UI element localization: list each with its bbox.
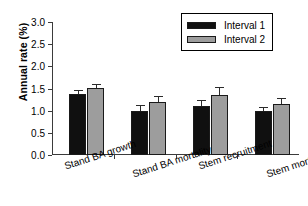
y-axis-tick-label: 0.5 <box>31 127 45 138</box>
y-axis-tick-label: 1.5 <box>31 83 45 94</box>
error-bar-cap <box>215 87 224 88</box>
bar <box>87 88 104 155</box>
bar-group <box>69 22 104 155</box>
error-bar-cap <box>277 98 286 99</box>
legend-label-interval-1: Interval 1 <box>224 20 265 31</box>
y-axis-tick-label: 3.0 <box>31 17 45 28</box>
bar-group <box>131 22 166 155</box>
legend-label-interval-2: Interval 2 <box>224 34 265 45</box>
error-bar-cap <box>259 107 268 108</box>
y-axis-tick-mark <box>48 22 52 23</box>
y-axis-tick-label: 0.0 <box>31 150 45 161</box>
y-axis-tick-mark <box>48 89 52 90</box>
y-axis-tick-mark <box>48 44 52 45</box>
bar <box>273 104 290 155</box>
error-bar-cap <box>74 90 83 91</box>
y-axis-title: Annual rate (%) <box>17 0 29 127</box>
y-axis-tick-mark <box>48 111 52 112</box>
y-axis-line <box>52 22 53 155</box>
legend-swatch-interval-2 <box>187 36 216 43</box>
y-axis-tick-mark <box>48 66 52 67</box>
bar-chart-figure: Annual rate (%) 0.00.51.01.52.02.53.0 St… <box>0 0 308 206</box>
error-bar-stem <box>219 87 220 95</box>
bar <box>149 102 166 155</box>
y-axis-tick-mark <box>48 133 52 134</box>
y-axis-tick-label: 2.0 <box>31 61 45 72</box>
legend-swatch-interval-1 <box>187 22 216 29</box>
legend-item-interval-1: Interval 1 <box>187 18 265 32</box>
y-axis-tick-label: 1.0 <box>31 105 45 116</box>
y-axis-tick-label: 2.5 <box>31 39 45 50</box>
error-bar-cap <box>136 105 145 106</box>
error-bar-cap <box>92 84 101 85</box>
legend-item-interval-2: Interval 2 <box>187 32 265 46</box>
bar <box>69 94 86 155</box>
chart-legend: Interval 1 Interval 2 <box>181 13 273 51</box>
bar <box>211 95 228 155</box>
error-bar-cap <box>154 96 163 97</box>
y-axis-tick-mark <box>48 155 52 156</box>
error-bar-cap <box>197 100 206 101</box>
